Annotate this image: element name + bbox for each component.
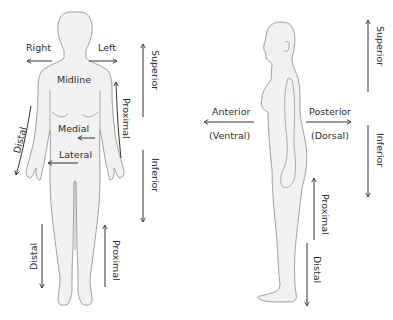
proximal-arm-label: Proximal [122,98,132,139]
right-label: Right [26,43,51,53]
ventral-label: (Ventral) [209,131,250,141]
dorsal-label: (Dorsal) [311,131,349,141]
anterior-label: Anterior [212,107,250,117]
superior-label-front: Superior [151,50,161,90]
lateral-label: Lateral [59,150,92,160]
distal-label-side: Distal [313,256,323,283]
left-label: Left [98,43,116,53]
superior-label-side: Superior [376,26,386,66]
anatomy-diagram [0,0,393,320]
proximal-label-side: Proximal [321,194,331,235]
midline-label: Midline [57,75,91,85]
posterior-label: Posterior [309,107,351,117]
side-body-figure [258,22,307,302]
inferior-label-front: Inferior [151,158,161,192]
inferior-label-side: Inferior [376,133,386,167]
medial-label: Medial [58,124,89,134]
distal-leg-label: Distal [29,243,39,270]
proximal-leg-label: Proximal [112,240,122,281]
